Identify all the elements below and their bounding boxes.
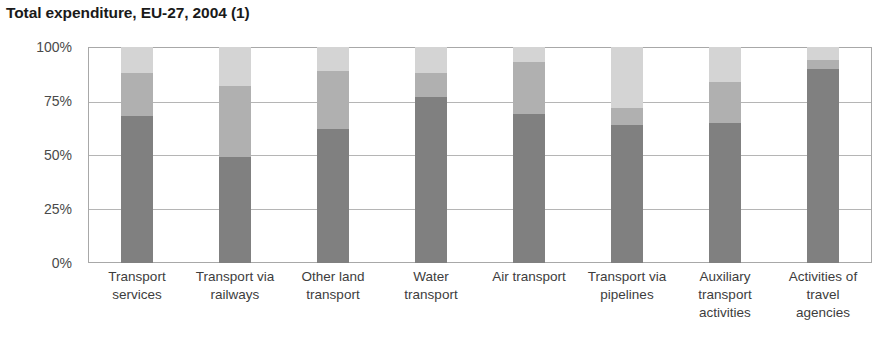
x-axis-category-label: Auxiliarytransportactivities — [676, 268, 774, 356]
y-axis-tick-label: 25% — [0, 201, 80, 217]
x-axis-category-line: pipelines — [579, 286, 675, 304]
bar-group — [774, 47, 872, 263]
y-axis-tick-label: 0% — [0, 255, 80, 271]
bar-segment — [709, 47, 741, 82]
bar-segment — [807, 47, 839, 60]
stacked-bar — [121, 47, 153, 263]
bar-group — [480, 47, 578, 263]
bar-segment — [709, 82, 741, 123]
y-axis-tick-label: 50% — [0, 147, 80, 163]
bar-segment — [121, 47, 153, 73]
x-axis-category-line: Transport via — [187, 268, 283, 286]
bar-group — [578, 47, 676, 263]
stacked-bar — [317, 47, 349, 263]
page-title: Total expenditure, EU-27, 2004 (1) — [6, 4, 250, 22]
bar-segment — [121, 73, 153, 116]
bar-segment — [415, 73, 447, 97]
x-axis-category-label: Activities oftravelagencies — [774, 268, 872, 356]
bar-segment — [513, 114, 545, 263]
bar-segment — [317, 71, 349, 129]
bar-group — [88, 47, 186, 263]
x-axis-category-line: Other land — [285, 268, 381, 286]
x-axis-category-line: activities — [677, 304, 773, 322]
x-axis-category-line: transport — [285, 286, 381, 304]
bar-segment — [611, 125, 643, 263]
x-axis-category-label: Transport viarailways — [186, 268, 284, 356]
x-axis-category-line: railways — [187, 286, 283, 304]
bar-group — [186, 47, 284, 263]
x-axis-category-line: services — [89, 286, 185, 304]
x-axis-category-line: transport — [677, 286, 773, 304]
bar-group — [676, 47, 774, 263]
bar-group — [382, 47, 480, 263]
x-axis-category-line: Activities of — [775, 268, 871, 286]
x-axis-category-line: agencies — [775, 304, 871, 322]
x-axis-category-label: Watertransport — [382, 268, 480, 356]
x-axis-category-label: Transport viapipelines — [578, 268, 676, 356]
stacked-bar — [611, 47, 643, 263]
x-axis-category-line: travel — [775, 286, 871, 304]
y-axis-tick-label: 75% — [0, 93, 80, 109]
bar-segment — [807, 69, 839, 263]
stacked-bar — [415, 47, 447, 263]
bar-segment — [219, 157, 251, 263]
bars-layer — [88, 47, 872, 263]
x-axis-category-line: Transport via — [579, 268, 675, 286]
x-axis-category-line: Water — [383, 268, 479, 286]
bar-segment — [121, 116, 153, 263]
x-axis-category-line: Auxiliary — [677, 268, 773, 286]
bar-segment — [611, 108, 643, 125]
y-axis-tick-label: 100% — [0, 39, 80, 55]
bar-segment — [513, 62, 545, 114]
stacked-bar — [807, 47, 839, 263]
y-axis: 0%25%50%75%100% — [0, 47, 80, 263]
x-axis-category-line: Air transport — [481, 268, 577, 286]
bar-segment — [513, 47, 545, 62]
bar-segment — [317, 129, 349, 263]
bar-segment — [709, 123, 741, 263]
x-axis-category-line: Transport — [89, 268, 185, 286]
x-axis-category-label: Transportservices — [88, 268, 186, 356]
bar-segment — [219, 86, 251, 157]
bar-segment — [807, 60, 839, 69]
stacked-bar — [219, 47, 251, 263]
x-axis-category-line: transport — [383, 286, 479, 304]
x-axis-category-label: Air transport — [480, 268, 578, 356]
bar-segment — [317, 47, 349, 71]
bar-segment — [219, 47, 251, 86]
chart-figure: Total expenditure, EU-27, 2004 (1) 0%25%… — [0, 0, 879, 361]
stacked-bar — [513, 47, 545, 263]
bar-segment — [415, 47, 447, 73]
bar-segment — [415, 97, 447, 263]
x-axis-category-label: Other landtransport — [284, 268, 382, 356]
bar-group — [284, 47, 382, 263]
bar-segment — [611, 47, 643, 107]
x-axis: TransportservicesTransport viarailwaysOt… — [88, 268, 872, 356]
stacked-bar — [709, 47, 741, 263]
